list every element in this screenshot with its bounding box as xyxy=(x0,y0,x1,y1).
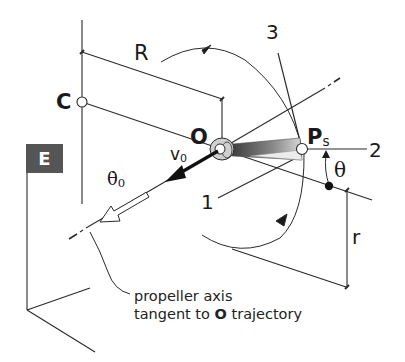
r-dimension-small xyxy=(345,188,349,289)
label-velocity: v0 xyxy=(170,146,187,164)
r-dimension-lower-line xyxy=(232,249,346,287)
label-axis-2: 2 xyxy=(369,140,382,160)
caption-leader-line xyxy=(90,232,130,294)
label-point-o: O xyxy=(190,127,208,148)
label-point-c: C xyxy=(56,92,71,113)
lower-rotation-arc xyxy=(202,152,304,248)
angular-rate-arrow xyxy=(100,192,149,222)
point-ps xyxy=(297,144,308,155)
caption-line-1: propeller axis xyxy=(134,287,302,305)
caption: propeller axis tangent to O trajectory xyxy=(134,287,302,323)
caption-line-2: tangent to O trajectory xyxy=(134,305,302,323)
upper-rotation-arc xyxy=(161,45,302,149)
caption-line-2-post: trajectory xyxy=(227,306,302,322)
label-ps-main: P xyxy=(307,125,322,149)
label-v-sub: 0 xyxy=(180,152,187,165)
propeller-kinematics-diagram: E C R O Ps 3 2 1 θ r v0 θ̇0 propeller ax… xyxy=(0,0,405,362)
label-thetadot-sub: 0 xyxy=(118,176,125,190)
frame-e-label: E xyxy=(26,144,63,173)
point-c xyxy=(77,97,87,107)
label-angular-rate: θ̇0 xyxy=(107,170,125,190)
label-v-main: v xyxy=(170,144,180,164)
label-thetadot-main: θ̇ xyxy=(107,168,118,189)
label-theta: θ xyxy=(334,160,346,180)
caption-line-2-bold: O xyxy=(215,306,227,322)
propeller-blade xyxy=(232,138,302,160)
axis-1-line xyxy=(218,155,302,198)
caption-line-2-pre: tangent to xyxy=(134,306,215,322)
label-axis-3: 3 xyxy=(266,22,279,42)
label-radius-big: R xyxy=(134,43,149,64)
label-point-ps: Ps xyxy=(307,127,330,149)
label-ps-sub: s xyxy=(322,133,329,149)
label-radius-small: r xyxy=(352,227,360,247)
frame-e-axes xyxy=(27,173,95,352)
hub-o xyxy=(210,138,234,160)
label-axis-1: 1 xyxy=(201,192,214,212)
